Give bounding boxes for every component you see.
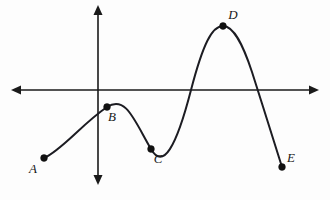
point-label-a: A [28,161,37,176]
graph-canvas: A B C D E [0,0,330,200]
labeled-points-group: A B C D E [28,7,295,176]
point-label-c: C [154,151,163,166]
point-label-e: E [286,150,295,165]
point-dot-d[interactable] [220,23,227,30]
y-axis-bottom-arrow-icon [94,175,103,185]
figure-root: A B C D E [0,0,330,200]
point-dot-a[interactable] [41,155,48,162]
y-axis-group [94,5,103,185]
point-label-d: D [227,7,238,22]
y-axis-top-arrow-icon [94,5,103,15]
x-axis-group [11,86,319,95]
point-dot-e[interactable] [279,164,286,171]
function-curve [44,26,282,167]
point-label-b: B [108,109,116,124]
x-axis-left-arrow-icon [11,86,21,95]
x-axis-right-arrow-icon [309,86,319,95]
